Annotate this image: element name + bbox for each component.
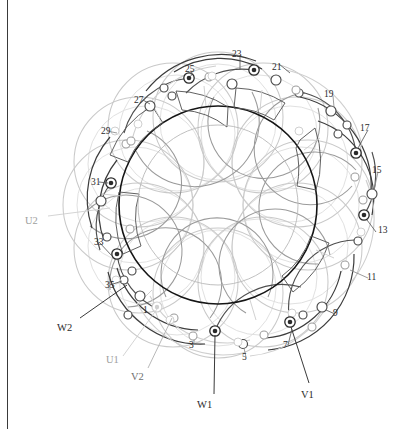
slot-label-21: 21 (272, 63, 282, 73)
terminal-label-v1: V1 (301, 390, 314, 401)
terminal-label-u1: U1 (106, 355, 119, 366)
slot-label-27: 27 (134, 96, 144, 106)
slot-label-15: 15 (372, 166, 382, 176)
coil-arcs-mid (89, 92, 356, 318)
terminal-label-w2: W2 (57, 323, 72, 334)
slot-label-3: 3 (189, 341, 194, 351)
slot-label-9: 9 (333, 309, 338, 319)
slot-label-5: 5 (242, 353, 247, 363)
slot-label-31: 31 (91, 178, 101, 188)
stator-winding-diagram (0, 0, 417, 429)
slot-label-7: 7 (283, 341, 288, 351)
terminal-label-w1: W1 (197, 400, 212, 411)
terminal-label-v2: V2 (131, 372, 144, 383)
slot-label-11: 11 (367, 273, 376, 283)
slot-label-33: 33 (94, 238, 104, 248)
slot-label-35: 35 (105, 281, 115, 291)
slot-label-25: 25 (185, 65, 195, 75)
diagram-canvas: 1 3 5 7 9 11 13 15 17 19 21 23 25 27 29 … (0, 0, 417, 429)
terminal-label-u2: U2 (25, 216, 38, 227)
slot-label-13: 13 (378, 226, 388, 236)
slot-label-29: 29 (101, 127, 111, 137)
slot-label-17: 17 (360, 124, 370, 134)
slot-label-19: 19 (324, 90, 334, 100)
slot-label-23: 23 (232, 50, 242, 60)
slot-label-1: 1 (143, 306, 148, 316)
stator-outer-ring (119, 106, 317, 304)
